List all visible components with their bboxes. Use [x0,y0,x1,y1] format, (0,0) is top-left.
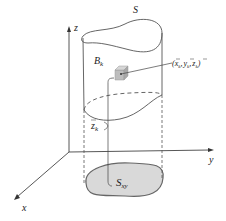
z-axis-arrow-icon [67,26,71,32]
triple-integral-diagram: z y x S Bk (xk,yk,zk) zk [0,0,226,221]
height-label: zk [90,120,99,133]
surface-top [82,19,162,51]
height-brace [104,122,108,130]
box-label: Bk [94,55,104,68]
point-leader-line [121,63,172,74]
surface-side-left [83,38,84,110]
y-axis-arrow-icon [208,148,214,152]
surface-label: S [133,4,138,15]
x-axis [17,152,69,197]
y-axis [69,150,210,152]
point-label: (xk,yk,zk) [172,59,201,69]
projection-region [86,163,163,196]
box-front-face [115,70,124,80]
axis-z-label: z [73,22,78,33]
axis-x-label: x [21,202,27,213]
surface-bottom-back [84,92,162,110]
axis-y-label: y [208,154,214,165]
